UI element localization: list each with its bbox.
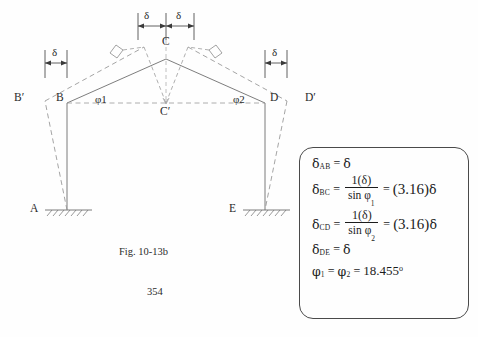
eq-angle-phi2: φ (338, 264, 347, 279)
right-angle-marker-left (110, 45, 123, 58)
eq-cd-denominator-wrap: sin φ2 (345, 223, 378, 239)
eq-bc-coefficient: (3.16) (393, 181, 429, 198)
dimension-label-left: δ (52, 47, 57, 58)
angle-label-phi1: φ1 (95, 94, 107, 105)
point-label-b: B (56, 92, 64, 104)
apex-left-to-cprime (144, 47, 166, 103)
equation-delta-de: δDE = δ (312, 242, 468, 257)
angle-label-phi2: φ2 (233, 94, 245, 105)
eq-cd-symbol: δ (312, 217, 320, 232)
point-label-e: E (229, 203, 236, 215)
figure-caption: Fig. 10-13b (119, 246, 168, 257)
eq-cd-subscript: CD (320, 223, 331, 232)
eq-cd-numerator: 1(δ) (349, 209, 375, 223)
eq-de-symbol: δ (312, 242, 320, 257)
eq-angle-equals: = (328, 264, 335, 279)
dimension-label-right: δ (272, 47, 277, 58)
eq-bc-symbol: δ (312, 182, 320, 197)
eq-de-rhs: δ (343, 242, 351, 257)
displaced-member-ab (45, 101, 67, 210)
eq-cd-equals2: = (383, 217, 390, 232)
support-e (243, 210, 290, 216)
point-label-c-prime: Cʹ (160, 106, 170, 118)
point-label-d: D (270, 92, 278, 104)
support-a (45, 210, 92, 216)
eq-ab-subscript: AB (320, 162, 331, 171)
eq-angle-value: 18.455 (363, 263, 399, 279)
eq-angle-phi2-sub: 2 (346, 270, 350, 279)
eq-bc-numerator: 1(δ) (349, 174, 375, 188)
displaced-member-de (265, 101, 287, 210)
eq-ab-rhs: δ (343, 156, 351, 171)
eq-bc-equals2: = (383, 182, 390, 197)
eq-bc-fraction: 1(δ) sin φ1 (345, 174, 378, 205)
point-label-c: C (162, 36, 170, 48)
eq-ab-equals: = (334, 156, 341, 171)
degree-symbol: o (399, 264, 403, 273)
eq-bc-denominator: sin φ (348, 189, 371, 201)
equation-delta-bc: δBC = 1(δ) sin φ1 = (3.16)δ (312, 172, 468, 206)
page-number: 354 (147, 286, 163, 297)
equations-box: δAB = δ δBC = 1(δ) sin φ1 = (3.16)δ δCD … (299, 147, 469, 319)
eq-bc-equals: = (333, 182, 340, 197)
eq-cd-denominator-sub: 2 (371, 234, 375, 243)
eq-cd-denominator: sin φ (348, 224, 371, 236)
eq-angle-phi1-sub: 1 (321, 270, 325, 279)
eq-bc-denominator-sub: 1 (371, 199, 375, 208)
eq-angle-equals2: = (353, 264, 360, 279)
eq-angle-phi1: φ (312, 264, 321, 279)
equation-delta-cd: δCD = 1(δ) sin φ2 = (3.16)δ (312, 207, 468, 241)
point-label-b-prime: Bʹ (14, 92, 24, 104)
figure-page: δ δ δ δ C Cʹ Bʹ B D Dʹ φ1 φ2 A E Fig. 10… (0, 0, 478, 337)
eq-cd-coefficient: (3.16) (393, 216, 429, 233)
eq-cd-equals: = (334, 217, 341, 232)
eq-cd-result-symbol: δ (429, 217, 437, 232)
eq-cd-fraction: 1(δ) sin φ2 (345, 209, 378, 240)
eq-bc-denominator-wrap: sin φ1 (345, 188, 378, 204)
point-label-a: A (30, 203, 38, 215)
dimension-label-top-right: δ (176, 10, 181, 21)
eq-bc-result-symbol: δ (429, 182, 437, 197)
original-frame-solid (67, 59, 265, 210)
apex-right-to-cprime (166, 47, 188, 103)
eq-ab-symbol: δ (312, 156, 320, 171)
dimension-label-top-left: δ (144, 10, 149, 21)
equations-list: δAB = δ δBC = 1(δ) sin φ1 = (3.16)δ δCD … (312, 156, 468, 280)
point-label-d-prime: Dʹ (305, 92, 316, 104)
eq-de-equals: = (333, 242, 340, 257)
equation-angles: φ1 = φ2 = 18.455o (312, 263, 468, 279)
eq-de-subscript: DE (320, 248, 331, 257)
equation-delta-ab: δAB = δ (312, 156, 468, 171)
eq-bc-subscript: BC (320, 188, 331, 197)
right-angle-marker-right (209, 45, 222, 58)
member-bc (67, 59, 166, 103)
